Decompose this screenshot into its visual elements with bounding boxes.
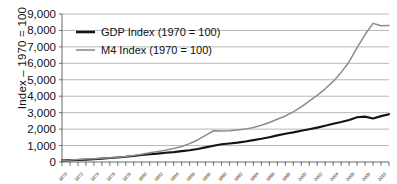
x-tick-label: 1996 [265, 171, 276, 182]
x-tick-label: 1988 [201, 171, 212, 182]
legend-label: GDP Index (1970 = 100) [101, 26, 220, 38]
chart-plot-area: 01,0002,0003,0004,0005,0006,0007,0008,00… [0, 0, 397, 184]
x-tick-label: 1970 [58, 171, 69, 182]
x-tick-label: 1984 [169, 171, 180, 182]
x-tick-label: 2008 [361, 171, 372, 182]
y-tick-label: 7,000 [27, 41, 56, 53]
x-tick-label: 1994 [249, 171, 260, 182]
x-tick-label: 2000 [297, 171, 308, 182]
x-tick-label: 1990 [217, 171, 228, 182]
x-tick-label: 1978 [121, 171, 132, 182]
y-tick-label: 5,000 [27, 74, 56, 86]
x-tick-labels: 1970197219741976197819801982198419861988… [58, 171, 388, 182]
x-tick-label: 1976 [106, 171, 117, 182]
series-line-gdp [62, 114, 389, 160]
y-tick-label: 3,000 [27, 107, 56, 119]
x-tick-label: 1972 [74, 171, 85, 182]
x-tick-label: 1986 [185, 171, 196, 182]
line-chart: Index – 1970 = 100 01,0002,0003,0004,000… [0, 0, 397, 184]
y-tick-labels: 01,0002,0003,0004,0005,0006,0007,0008,00… [27, 8, 56, 168]
y-tick-label: 2,000 [27, 123, 56, 135]
y-tick-label: 6,000 [27, 57, 56, 69]
x-tick-label: 1992 [233, 171, 244, 182]
x-tick-label: 2002 [313, 171, 324, 182]
x-tick-label: 2004 [329, 171, 340, 182]
y-tick-label: 4,000 [27, 90, 56, 102]
y-tick-label: 0 [50, 156, 56, 168]
x-tick-label: 1980 [137, 171, 148, 182]
y-tick-label: 9,000 [27, 8, 56, 20]
x-tick-label: 1982 [153, 171, 164, 182]
x-tick-label: 1974 [90, 171, 101, 182]
x-tick-label: 1998 [281, 171, 292, 182]
x-tick-label: 2006 [345, 171, 356, 182]
x-tick-marks [62, 162, 389, 166]
y-tick-label: 8,000 [27, 24, 56, 36]
x-tick-label: 2010 [377, 171, 388, 182]
legend-label: M4 Index (1970 = 100) [101, 44, 212, 56]
y-tick-label: 1,000 [27, 140, 56, 152]
